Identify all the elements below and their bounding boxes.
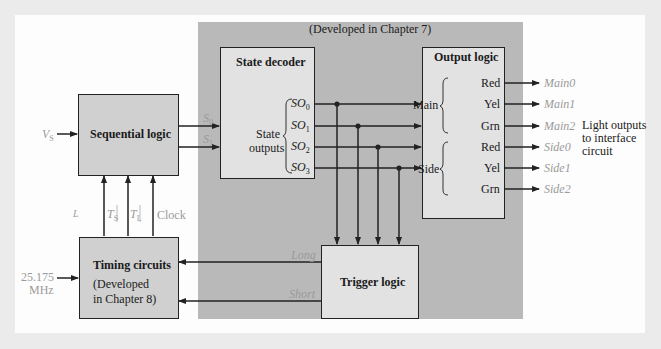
main-brace — [440, 78, 448, 133]
chapter7-label: (Developed in Chapter 7) — [309, 23, 431, 35]
light-outputs-caption-1: Light outputs — [582, 119, 646, 131]
s1-label: S1 — [203, 133, 213, 148]
output-side2: Side2 — [544, 183, 571, 195]
output-main2: Main2 — [544, 120, 575, 132]
trigger-logic-title: Trigger logic — [340, 276, 405, 288]
timing-note-1: (Developed — [93, 278, 149, 290]
output-logic-title: Output logic — [434, 51, 498, 63]
main-grn-port: Grn — [481, 120, 500, 132]
side-red-port: Red — [481, 141, 500, 153]
ts-label: TS — [107, 208, 118, 223]
long-label: Long — [291, 249, 316, 261]
main-label: Main — [413, 99, 438, 111]
side-label: Side — [418, 163, 439, 175]
state-outputs-label-2: outputs — [249, 142, 284, 154]
state-outputs-label-1: State — [256, 128, 280, 140]
so2-label: SO2 — [291, 140, 310, 155]
l-label: L — [73, 209, 79, 219]
timing-circuits-title: Timing circuits — [93, 259, 171, 271]
main-red-port: Red — [481, 77, 500, 89]
side-yel-port: Yel — [484, 162, 500, 174]
tl-label: TL — [130, 208, 142, 223]
sequential-logic-title: Sequential logic — [90, 128, 171, 140]
timing-note-2: in Chapter 8) — [93, 293, 156, 305]
so1-label: SO1 — [291, 119, 310, 134]
output-main1: Main1 — [544, 98, 575, 110]
side-grn-port: Grn — [481, 183, 500, 195]
output-side1: Side1 — [544, 162, 571, 174]
side-brace — [440, 142, 448, 195]
short-label: Short — [289, 288, 315, 300]
clock-freq-2: MHz — [29, 284, 54, 296]
so3-label: SO3 — [291, 161, 310, 176]
clock-label: Clock — [157, 209, 186, 221]
state-decoder-title: State decoder — [236, 56, 306, 68]
clock-freq-1: 25.175 — [21, 271, 54, 283]
junction-dots — [334, 101, 401, 170]
light-outputs-caption-2: to interface — [582, 132, 636, 144]
vs-label: VS — [42, 128, 54, 143]
output-side0: Side0 — [544, 141, 571, 153]
main-yel-port: Yel — [484, 98, 500, 110]
s0-label: S0 — [203, 112, 213, 127]
light-outputs-caption-3: circuit — [582, 145, 613, 157]
so0-label: SO0 — [291, 97, 310, 112]
output-main0: Main0 — [544, 77, 575, 89]
